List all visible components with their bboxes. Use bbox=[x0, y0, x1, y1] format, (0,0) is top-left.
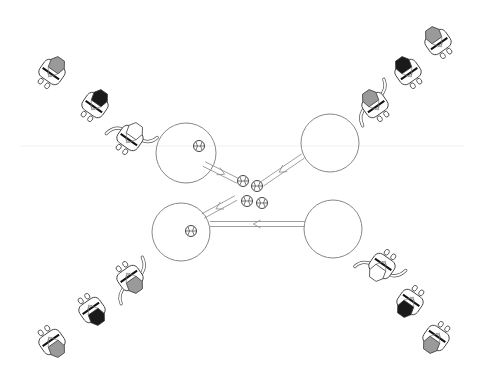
drill-diagram bbox=[0, 0, 484, 384]
player-figure-icon bbox=[348, 79, 403, 131]
player-line-bottom-left bbox=[32, 251, 157, 362]
station-circle-top-right bbox=[301, 114, 359, 172]
ball-icon bbox=[242, 196, 253, 207]
player-figure-icon bbox=[75, 85, 114, 126]
player-figure-icon bbox=[391, 281, 430, 322]
ball-icon bbox=[238, 176, 249, 187]
station-circle-top-left bbox=[156, 123, 216, 183]
player-figure-icon bbox=[72, 289, 111, 330]
player-figure-icon bbox=[102, 112, 157, 164]
diagram-canvas bbox=[0, 0, 484, 384]
player-figure-icon bbox=[32, 52, 71, 93]
player-figure-icon bbox=[102, 251, 157, 303]
station-circle-bottom-right bbox=[304, 200, 362, 258]
ball-icon bbox=[186, 226, 197, 237]
station-circle-bottom-left bbox=[152, 203, 210, 261]
ball-icon bbox=[257, 198, 268, 209]
player-figure-icon bbox=[32, 321, 71, 362]
pass-path-br-to-bl bbox=[210, 220, 305, 228]
ball-icon bbox=[194, 141, 205, 152]
player-line-bottom-right bbox=[355, 239, 456, 358]
player-figure-icon bbox=[355, 239, 410, 291]
pass-path-center-to-bl bbox=[202, 196, 237, 218]
player-figure-icon bbox=[417, 317, 456, 358]
ball-icon bbox=[252, 181, 263, 192]
player-figure-icon bbox=[419, 22, 458, 63]
player-line-top-left bbox=[32, 52, 157, 165]
player-figure-icon bbox=[389, 52, 428, 93]
player-line-top-right bbox=[348, 22, 458, 132]
pass-path-tr-to-center bbox=[261, 154, 305, 186]
